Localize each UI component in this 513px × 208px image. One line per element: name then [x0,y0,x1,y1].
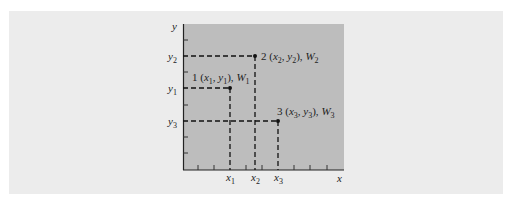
x3-label: x3 [273,171,283,186]
point-3 [276,119,280,123]
x1-label: x1 [225,171,235,186]
plot-area [183,24,344,170]
y1-label: y1 [167,82,177,97]
point-1 [228,86,232,90]
y-axis-label: y [171,20,177,32]
location-diagram: y x y2 y1 y3 x1 x2 x3 1 (x1, y1), W1 2 (… [0,0,513,208]
x2-label: x2 [250,171,260,186]
y2-label: y2 [167,50,177,65]
point-2 [253,54,257,58]
y3-label: y3 [167,115,177,130]
x-axis-label: x [336,172,342,184]
